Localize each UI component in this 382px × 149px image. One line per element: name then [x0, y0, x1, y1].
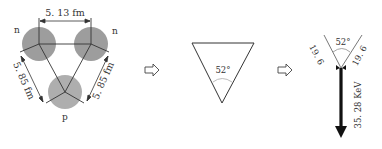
hollow-right-arrow-icon [145, 64, 159, 76]
energy-label: 35. 28 KeV [353, 81, 363, 129]
hollow-right-arrow-icon [278, 64, 292, 76]
apex-angle-label: 52° [335, 37, 350, 47]
angle-triangle-panel: 52° [192, 43, 254, 103]
angle-arc [333, 49, 350, 53]
neutron-left-label: n [14, 25, 20, 35]
left-arm-label: 19. 6 [307, 43, 326, 67]
momentum-vector-panel: 52° 19. 6 19. 6 35. 28 KeV [307, 35, 369, 138]
recoil-vector-head [335, 126, 347, 138]
angle-arc [213, 79, 232, 83]
diagram-canvas: 5. 13 fm 5. 85 fm 5. 85 fm n n p 52° 52°… [0, 0, 382, 149]
nucleon-triangle-panel: 5. 13 fm 5. 85 fm 5. 85 fm n n p [11, 7, 118, 122]
apex-angle-label: 52° [215, 65, 230, 75]
neutron-right-label: n [112, 26, 118, 36]
proton-label: p [62, 112, 68, 122]
right-arm-label: 19. 6 [350, 44, 369, 68]
right-distance-label: 5. 85 fm [90, 60, 116, 101]
top-distance-label: 5. 13 fm [45, 7, 85, 18]
left-distance-label: 5. 85 fm [11, 60, 37, 101]
